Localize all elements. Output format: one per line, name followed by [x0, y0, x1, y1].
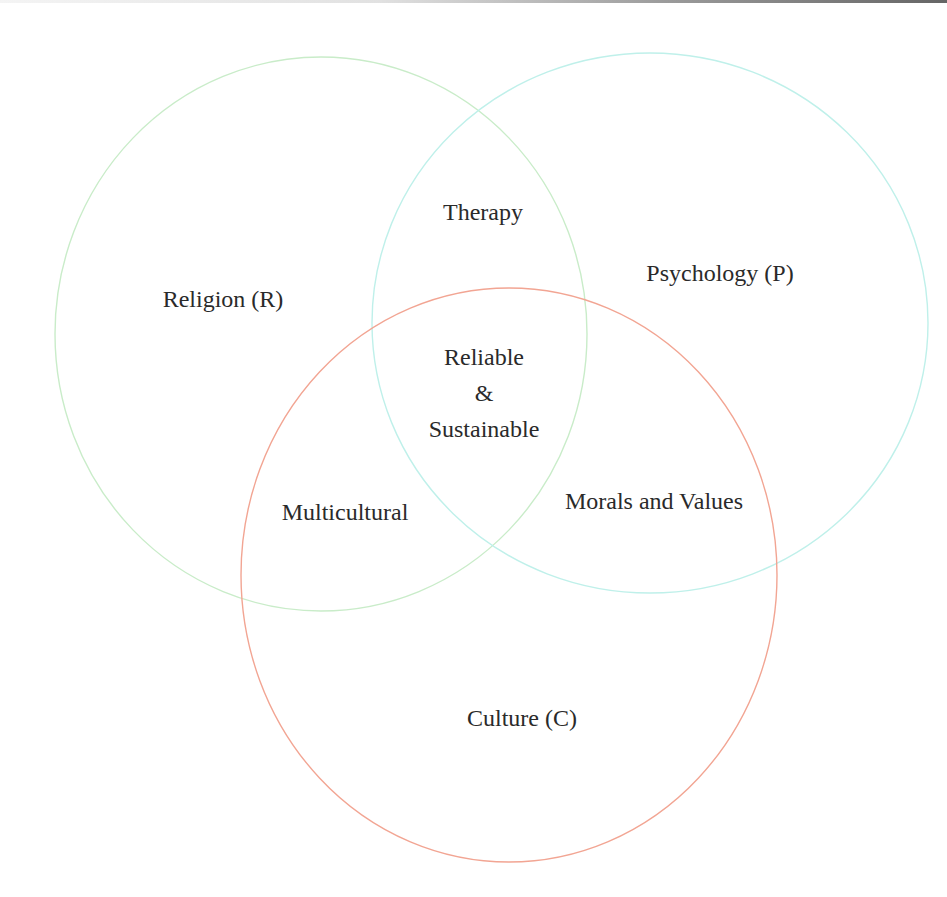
- morals-and-values-label: Morals and Values: [565, 489, 743, 513]
- therapy-label: Therapy: [443, 200, 523, 224]
- culture-label: Culture (C): [467, 706, 577, 730]
- religion-circle: [55, 57, 587, 611]
- center-line-sustainable: Sustainable: [429, 411, 540, 447]
- center-intersection-label: Reliable & Sustainable: [429, 339, 540, 447]
- center-line-ampersand: &: [429, 375, 540, 411]
- psychology-label: Psychology (P): [646, 261, 793, 285]
- venn-diagram: [0, 0, 947, 897]
- center-line-reliable: Reliable: [429, 339, 540, 375]
- religion-label: Religion (R): [163, 287, 284, 311]
- multicultural-label: Multicultural: [282, 500, 409, 524]
